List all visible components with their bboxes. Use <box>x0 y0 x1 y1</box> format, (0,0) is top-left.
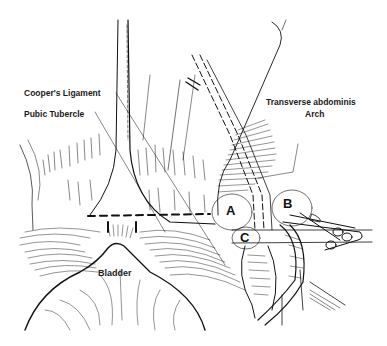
illustration-drawing <box>0 0 387 346</box>
anatomical-diagram: Cooper's Ligament Pubic Tubercle Transve… <box>0 0 387 346</box>
label-arch: Arch <box>305 109 324 119</box>
label-coopers-ligament: Cooper's Ligament <box>24 88 101 98</box>
label-bladder: Bladder <box>98 268 132 278</box>
region-a-label: A <box>226 203 235 218</box>
region-b-label: B <box>283 196 292 211</box>
label-transverse-abdominis: Transverse abdominis <box>266 97 356 107</box>
label-pubic-tubercle: Pubic Tubercle <box>24 109 84 119</box>
region-c-label: C <box>240 230 249 245</box>
